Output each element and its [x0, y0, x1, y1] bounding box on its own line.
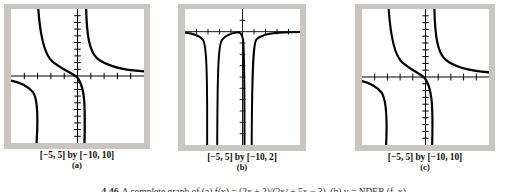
curve-branch-left-c	[362, 81, 387, 145]
graph-svg-a	[11, 9, 144, 143]
graph-panel-row: [−5, 5] by [−10, 10] (a)	[0, 0, 507, 178]
calculator-screen-frame-c	[355, 4, 495, 151]
curve-branch-right-a	[86, 9, 144, 71]
panel-caption-b: [−5, 5] by [−10, 2] (b)	[178, 153, 306, 172]
calculator-screen-frame-b	[178, 4, 306, 151]
curve-branch-midleft-b	[217, 32, 238, 145]
calculator-screen-a	[11, 9, 144, 143]
panel-caption-a: [−5, 5] by [−10, 10] (a)	[4, 151, 150, 170]
curve-branch-right-c	[434, 9, 489, 72]
panel-caption-c: [−5, 5] by [−10, 10] (c)	[355, 153, 495, 172]
figure-caption-text: A complete graph of (a) f(x) = (2x + 2)/…	[122, 187, 406, 192]
graph-svg-c	[362, 9, 489, 145]
textbook-figure: [−5, 5] by [−10, 10] (a)	[0, 0, 507, 192]
curve-branch-right-b	[252, 32, 300, 145]
calculator-screen-b	[185, 9, 300, 145]
curve-branch-left-b	[185, 33, 207, 145]
panel-letter-b: (b)	[178, 163, 306, 172]
graph-panel-c: [−5, 5] by [−10, 10] (c)	[355, 4, 495, 172]
panel-letter-c: (c)	[355, 163, 495, 172]
figure-number: 4.46	[101, 186, 119, 192]
graph-svg-b	[185, 9, 300, 145]
graph-panel-a: [−5, 5] by [−10, 10] (a)	[4, 4, 150, 170]
curve-branch-left-a	[11, 81, 37, 143]
calculator-screen-c	[362, 9, 489, 145]
calculator-screen-frame-a	[4, 4, 150, 149]
figure-caption: 4.46A complete graph of (a) f(x) = (2x +…	[0, 181, 507, 192]
panel-letter-a: (a)	[4, 161, 150, 170]
figure-caption-inner: 4.46A complete graph of (a) f(x) = (2x +…	[101, 186, 406, 192]
graph-panel-b: [−5, 5] by [−10, 2] (b)	[178, 4, 306, 172]
